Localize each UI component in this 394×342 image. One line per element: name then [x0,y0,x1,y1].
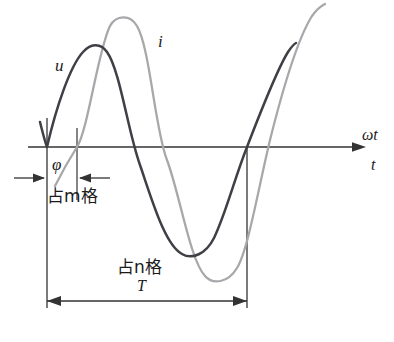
voltage-curve-label: u [55,57,64,74]
phase-arrow-left-head-icon [33,174,45,183]
period-dimension-arrow [47,296,247,306]
voltage-waveform-curve [40,43,296,256]
period-divisions-label: 占n格 [117,259,162,276]
period-arrow-left-head-icon [47,296,61,306]
omega-t-axis-label: ωt [362,127,378,143]
period-symbol-label: T [137,278,146,294]
t-axis-label: t [371,157,375,173]
period-arrow-right-head-icon [233,296,247,306]
phase-arrow-right-head-icon [79,174,91,183]
phase-divisions-label: 占m格 [47,188,98,205]
waveform-figure: u i φ ωt t 占m格 占n格 T [0,0,394,342]
axis-arrowhead-icon [352,142,366,152]
current-curve-label: i [158,33,163,50]
phase-angle-label: φ [52,156,61,173]
